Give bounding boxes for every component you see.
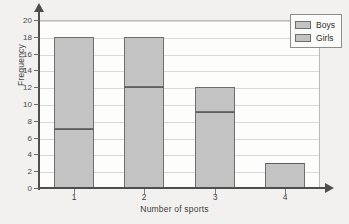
y-axis-tick <box>34 104 39 105</box>
x-axis-arrow-icon <box>325 183 334 193</box>
bar-segment-girls <box>195 112 235 188</box>
chart-legend: Boys Girls <box>290 14 342 48</box>
y-axis-tick-label: 0 <box>6 184 32 193</box>
x-axis-tick-label: 3 <box>195 192 235 202</box>
y-axis-title: Frequency <box>16 20 26 110</box>
y-axis-tick <box>34 138 39 139</box>
y-axis-tick <box>34 70 39 71</box>
bar-segment-girls <box>54 129 94 188</box>
y-axis-tick <box>34 154 39 155</box>
legend-label: Girls <box>316 33 333 43</box>
y-axis-tick <box>34 54 39 55</box>
legend-swatch-icon <box>295 21 311 29</box>
bar-segment-girls <box>265 163 305 188</box>
bar-segment-boys <box>124 37 164 87</box>
legend-label: Boys <box>316 20 335 30</box>
legend-item-boys: Boys <box>295 18 335 31</box>
x-axis-line <box>39 187 326 189</box>
y-axis-tick-label: 6 <box>6 133 32 142</box>
y-axis-tick-label: 8 <box>6 116 32 125</box>
bar-segment-girls <box>124 87 164 188</box>
chart-container: 02468101214161820 1234 Frequency Number … <box>0 0 349 224</box>
y-axis-tick <box>34 37 39 38</box>
x-axis-tick-label: 1 <box>54 192 94 202</box>
y-axis-tick <box>34 121 39 122</box>
y-axis-tick <box>34 171 39 172</box>
x-axis-tick-label: 2 <box>124 192 164 202</box>
legend-item-girls: Girls <box>295 31 335 44</box>
y-axis-tick <box>34 87 39 88</box>
y-axis-tick-label: 4 <box>6 150 32 159</box>
legend-swatch-icon <box>295 34 311 42</box>
gridline <box>40 21 319 22</box>
bar-segment-boys <box>54 37 94 129</box>
x-axis-title: Number of sports <box>0 204 349 214</box>
bar-segment-boys <box>195 87 235 112</box>
y-axis-tick-label: 2 <box>6 167 32 176</box>
y-axis-tick <box>34 20 39 21</box>
y-axis-arrow-icon <box>34 3 44 12</box>
x-axis-tick-label: 4 <box>265 192 305 202</box>
